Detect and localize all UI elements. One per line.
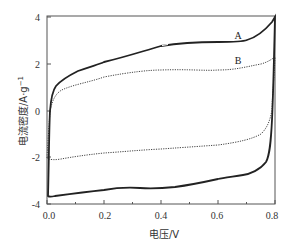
curve-b <box>47 57 275 160</box>
x-tick-0.6: 0.6 <box>211 210 224 221</box>
x-axis-ticks <box>47 200 275 204</box>
curve-b-label: B <box>235 55 242 66</box>
x-tick-0.0: 0.0 <box>43 210 56 221</box>
y-tick-4: 4 <box>35 12 40 23</box>
x-tick-0.4: 0.4 <box>155 210 168 221</box>
x-tick-0.8: 0.8 <box>266 210 279 221</box>
x-axis-title: 电压/V <box>149 228 179 240</box>
y-tick-neg2: -2 <box>32 152 40 163</box>
y-tick-0: 0 <box>35 106 40 117</box>
curve-a-label: A <box>234 30 242 41</box>
x-tick-0.2: 0.2 <box>99 210 112 221</box>
y-axis-title: 电流密度/A·g−1 <box>17 76 29 146</box>
y-axis-title-superscript: −1 <box>17 76 25 86</box>
y-tick-neg4: -4 <box>32 199 40 210</box>
y-tick-2: 2 <box>35 59 40 70</box>
curve-a <box>48 17 275 197</box>
cv-chart: 4 2 0 -2 -4 0.0 0.2 0.4 0.6 0.8 电压/V 电流密… <box>0 0 290 248</box>
